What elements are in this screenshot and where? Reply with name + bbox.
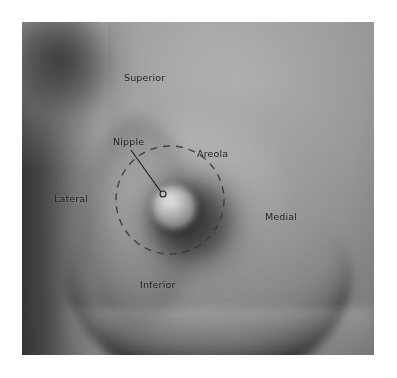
label-inferior: Inferior: [140, 279, 175, 290]
nipple-point-marker: [160, 191, 166, 197]
anatomy-figure: Superior Nipple Areola Lateral Medial In…: [0, 0, 397, 378]
nipple-leader-line: [131, 150, 161, 192]
label-medial: Medial: [265, 211, 297, 222]
label-superior: Superior: [124, 72, 165, 83]
label-lateral: Lateral: [54, 193, 88, 204]
areola-outline-circle: [116, 146, 224, 254]
annotation-overlay: [0, 0, 397, 378]
label-nipple: Nipple: [113, 136, 144, 147]
label-areola: Areola: [197, 148, 228, 159]
